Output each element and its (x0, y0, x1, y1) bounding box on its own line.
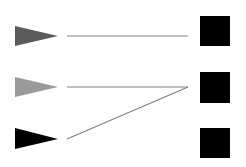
square-2-icon (200, 72, 230, 103)
connection-line-3 (67, 87, 188, 139)
matching-diagram (0, 0, 246, 167)
triangle-light-gray-icon (15, 77, 58, 97)
triangle-dark-gray-icon (15, 26, 58, 46)
square-3-icon (200, 128, 230, 158)
square-1-icon (200, 16, 230, 46)
triangle-black-icon (15, 128, 58, 149)
